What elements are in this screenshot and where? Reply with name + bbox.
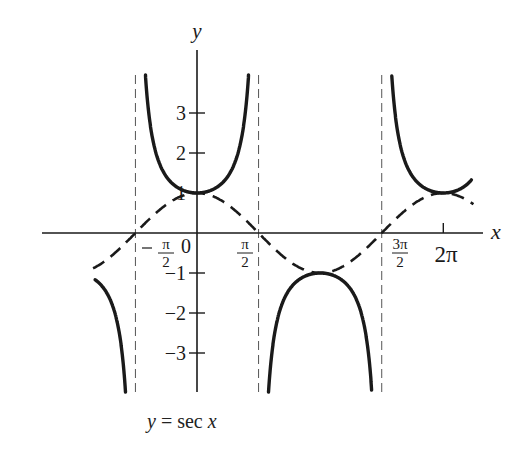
y-axis-label: y [190,19,202,43]
x-tick-zero: 0 [181,235,191,257]
x-tick-neg-half-pi-num: π [162,236,170,252]
x-tick-neg-half-pi-den: 2 [162,254,170,270]
x-tick-half-pi-den: 2 [241,254,249,270]
sec-branch [95,280,125,392]
x-tick-three-half-pi-den: 2 [396,254,404,270]
x-axis-label: x [490,219,501,244]
caption-equals: = [161,410,172,432]
y-tick-label: 2 [176,142,186,164]
caption-arg: x [208,410,217,432]
sec-branch [269,273,372,392]
x-tick-half-pi-num: π [241,236,249,252]
caption-lhs: y [147,410,156,432]
y-tick-label: 3 [176,102,186,124]
graph-caption: y = sec x [147,410,217,433]
y-tick-label: 1 [176,182,186,204]
x-tick-three-half-pi-num: 3π [392,236,408,252]
y-tick-label: −3 [165,342,186,364]
caption-function: sec [177,410,203,432]
sec-x-graph: 321−1−2−3yxπ20π23π22π [0,0,528,410]
x-tick-two-pi: 2π [434,242,458,267]
axes [42,50,483,392]
y-tick-label: −2 [165,302,186,324]
sec-branch [392,76,472,193]
